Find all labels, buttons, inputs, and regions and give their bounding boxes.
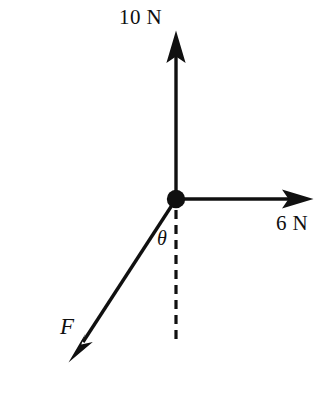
label-vector-up-10n: 10 N	[119, 7, 162, 28]
diagram-background	[0, 0, 333, 394]
origin-node	[167, 190, 185, 208]
force-diagram: 10 N 6 N F θ	[0, 0, 333, 394]
vector-canvas	[0, 0, 333, 394]
label-angle-theta: θ	[157, 228, 167, 248]
label-vector-right-6n: 6 N	[276, 213, 308, 234]
label-vector-force-f: F	[60, 315, 74, 338]
